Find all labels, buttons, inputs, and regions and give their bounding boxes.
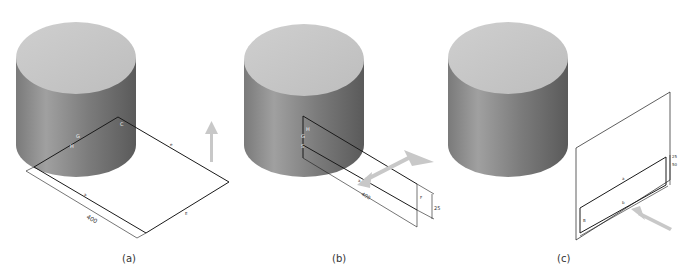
dim-height-label-c: 50 (672, 162, 678, 167)
cylinder-a (16, 22, 136, 177)
dim-label-a: 400 (86, 213, 100, 225)
point-label-h: H (70, 143, 74, 149)
arrow-up-icon (205, 121, 218, 162)
point-label-g: G (76, 133, 80, 139)
point-label-s-b: S (301, 143, 304, 149)
cylinder-b (244, 24, 364, 177)
panel-c: 25 50 a B b (c) (448, 22, 678, 264)
edge-label-a: a (84, 192, 87, 197)
panel-a: 400 G H C e a E (a) (16, 22, 229, 264)
sketch-plane-c (576, 92, 670, 240)
edge-label-f: E (185, 211, 188, 216)
point-label-c: C (120, 121, 124, 127)
caption-a: (a) (122, 253, 136, 264)
figure-canvas: 400 G H C e a E (a) 400 25 H G (0, 0, 688, 277)
caption-b: (b) (332, 253, 346, 264)
panel-b: 400 25 H G S a F (b) (244, 24, 440, 264)
point-label-h-b: H (306, 126, 310, 132)
edge-label-b-c: B (583, 218, 586, 223)
dim-height-label-b: 25 (434, 205, 440, 211)
edge-label-f-b: F (420, 195, 423, 200)
dim-length-label-b: 400 (361, 191, 372, 201)
point-label-g-b: G (301, 133, 305, 139)
edge-label-a-c: a (622, 176, 625, 181)
cylinder-c (448, 22, 568, 177)
dim-small-label-c: 25 (672, 154, 678, 159)
arrow-diagonal-icon (631, 206, 672, 231)
edge-label-c-c: b (622, 200, 625, 205)
edge-label-e: e (170, 142, 173, 147)
caption-c: (c) (557, 253, 570, 264)
double-arrow-icon (357, 150, 434, 188)
